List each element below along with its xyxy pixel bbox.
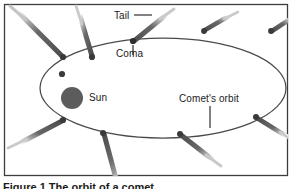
sun-disc: [61, 87, 83, 109]
label-tail: Tail: [114, 10, 129, 21]
comet-orbit-diagram: [0, 0, 296, 189]
label-comets-orbit: Comet's orbit: [179, 93, 239, 104]
label-coma: Coma: [116, 48, 143, 59]
comet-coma: [60, 117, 66, 123]
comet-coma: [201, 28, 207, 34]
comet-coma: [268, 28, 274, 34]
comet-coma: [130, 38, 136, 44]
comet-coma: [177, 131, 183, 137]
comet-coma: [89, 54, 95, 60]
figure-caption: Figure 1 The orbit of a comet: [3, 181, 154, 189]
figure-container: Tail Coma Sun Comet's orbit Figure 1 The…: [0, 0, 296, 189]
comet-coma: [100, 130, 106, 136]
comet-coma: [253, 114, 259, 120]
label-sun: Sun: [89, 92, 107, 103]
comet-coma: [60, 54, 66, 60]
comet-coma: [59, 71, 65, 77]
